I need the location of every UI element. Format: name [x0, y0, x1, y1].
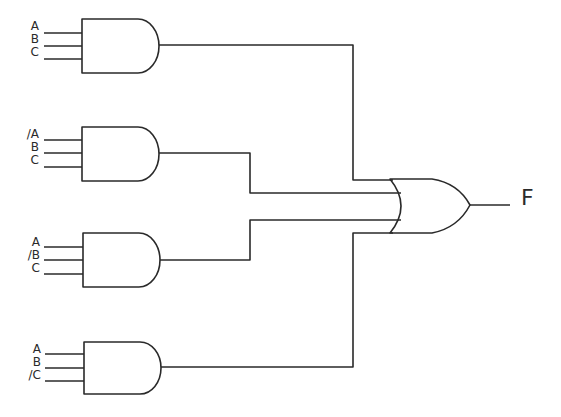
label-and1-in1: A — [31, 19, 40, 33]
and-gate-4-body — [84, 342, 161, 394]
output-label: F — [521, 185, 534, 210]
or-gate-body — [390, 179, 470, 233]
label-and4-in2: B — [33, 355, 41, 369]
and-gate-2-body — [82, 127, 159, 181]
wire-and2-to-or — [159, 153, 401, 193]
label-and4-in1: A — [33, 342, 42, 356]
and-gate-1-body — [82, 19, 159, 73]
wire-and1-to-or — [159, 45, 393, 180]
logic-diagram: A B C /A B C A /B C A B /C F — [0, 0, 561, 417]
label-and2-in3: C — [31, 153, 39, 167]
wire-and3-to-or — [160, 220, 401, 260]
and-gate-3-body — [83, 233, 160, 287]
label-and1-in2: B — [31, 32, 39, 46]
label-and3-in1: A — [32, 235, 41, 249]
label-and1-in3: C — [31, 45, 39, 59]
wire-and4-to-or — [161, 233, 393, 367]
label-and2-in2: B — [31, 140, 39, 154]
label-and4-in3: /C — [29, 368, 41, 382]
or-gate — [390, 179, 510, 233]
and-gate-2 — [44, 127, 159, 181]
label-and3-in3: C — [32, 261, 40, 275]
and-gate-4 — [45, 342, 161, 394]
input-labels: A B C /A B C A /B C A B /C — [27, 19, 42, 382]
label-and3-in2: /B — [28, 248, 40, 262]
label-and2-in1: /A — [27, 127, 40, 141]
and-gate-1 — [44, 19, 159, 73]
and-gate-3 — [44, 233, 160, 287]
